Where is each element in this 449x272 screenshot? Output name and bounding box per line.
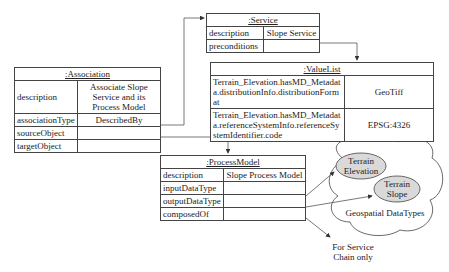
preconditions-connector [320, 43, 357, 60]
service-table: :Service description Slope Service preco… [206, 13, 320, 53]
association-value: Associate Slope Service and its Process … [77, 81, 160, 114]
processmodel-key: composedOf [161, 208, 224, 221]
service-chain-note: For Service Chain only [328, 242, 378, 262]
cloud-label: Geospatial DataTypes [340, 208, 430, 218]
processmodel-value: Slope Process Model [223, 169, 305, 182]
processmodel-value [223, 182, 305, 195]
source-object-connector [161, 18, 204, 125]
service-key: preconditions [207, 40, 264, 53]
association-key: description [15, 81, 78, 114]
valuelist-value: GeoTiff [345, 76, 434, 109]
processmodel-table: :ProcessModel description Slope Process … [160, 155, 306, 221]
valuelist-table: :ValueList Terrain_Elevation.hasMD_Metad… [210, 62, 434, 142]
association-key: associationType [15, 114, 78, 127]
valuelist-key: Terrain_Elevation.hasMD_Metadata.distrib… [211, 76, 345, 109]
service-title: :Service [207, 14, 320, 27]
valuelist-key: Terrain_Elevation.hasMD_Metadata.referen… [211, 109, 345, 142]
processmodel-value [223, 195, 305, 208]
valuelist-title: :ValueList [211, 63, 434, 76]
association-key: sourceObject [15, 127, 78, 140]
composed-of-connector [306, 218, 330, 237]
terrain-slope-label: Terrain Slope [378, 179, 416, 199]
association-table: :Association description Associate Slope… [14, 67, 161, 153]
association-key: targetObject [15, 140, 78, 153]
processmodel-key: description [161, 169, 224, 182]
association-value: DescribedBy [77, 114, 160, 127]
association-title: :Association [15, 68, 161, 81]
association-value [77, 140, 160, 153]
terrain-elevation-label: Terrain Elevation [338, 156, 384, 176]
service-key: description [207, 27, 264, 40]
processmodel-value [223, 208, 305, 221]
processmodel-key: outputDataType [161, 195, 224, 208]
valuelist-value: EPSG:4326 [345, 109, 434, 142]
service-value [264, 40, 320, 53]
processmodel-key: inputDataType [161, 182, 224, 195]
association-value [77, 127, 160, 140]
processmodel-title: :ProcessModel [161, 156, 306, 169]
service-value: Slope Service [264, 27, 320, 40]
